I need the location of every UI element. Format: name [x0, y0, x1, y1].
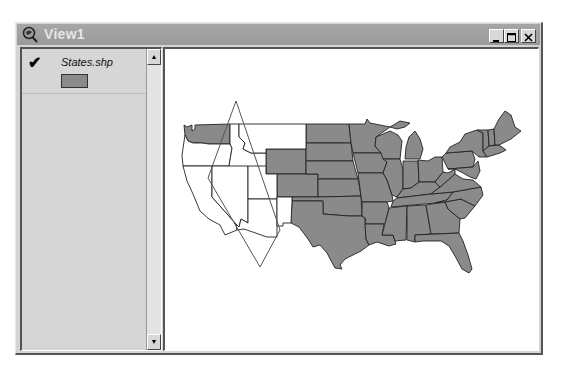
scroll-up-arrow-icon: ▲: [151, 53, 158, 60]
us-states-map[interactable]: [165, 49, 539, 351]
layer-visibility-checkbox[interactable]: ✔: [28, 53, 41, 72]
view-window: View1 ✔ States.shp ▲ ▼: [15, 22, 543, 355]
layer-entry-states[interactable]: ✔ States.shp: [22, 49, 146, 94]
layer-name[interactable]: States.shp: [61, 56, 113, 68]
layer-symbol-swatch[interactable]: [61, 74, 88, 88]
view-magnifier-icon: [21, 26, 39, 44]
scroll-down-arrow-icon: ▼: [151, 338, 158, 345]
scroll-up-button[interactable]: ▲: [147, 49, 161, 65]
title-bar[interactable]: View1: [17, 24, 540, 45]
window-title: View1: [44, 26, 85, 42]
map-display[interactable]: [163, 47, 539, 351]
close-button[interactable]: [521, 29, 536, 43]
close-icon: [522, 32, 535, 44]
minimize-icon: [490, 32, 503, 44]
maximize-icon: [505, 32, 518, 44]
minimize-button[interactable]: [489, 29, 504, 43]
maximize-button[interactable]: [504, 29, 519, 43]
scroll-down-button[interactable]: ▼: [147, 334, 161, 350]
table-of-contents: ✔ States.shp ▲ ▼: [20, 47, 162, 351]
toc-scrollbar[interactable]: ▲ ▼: [146, 49, 161, 350]
